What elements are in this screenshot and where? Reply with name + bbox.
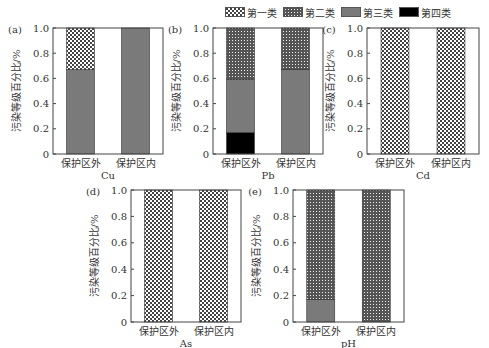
x-axis-label: Cu	[101, 170, 116, 181]
y-tick-label: 0	[203, 149, 209, 160]
y-tick-label: 0.8	[193, 48, 209, 59]
y-tick-label: 0.4	[273, 264, 289, 275]
charts-canvas: 保护区外保护区内00.20.40.60.81.0(a)Cu污染等级百分比/%保护…	[0, 0, 489, 348]
y-tick-label: 1.0	[273, 185, 289, 196]
x-tick-label: 保护区外	[221, 157, 261, 169]
y-tick-label: 0.8	[111, 211, 127, 222]
y-tick-label: 0.8	[33, 48, 49, 59]
y-tick-label: 0.2	[193, 123, 209, 134]
y-axis-label: 污染等级百分比/%	[324, 50, 336, 133]
bar-segment	[227, 80, 255, 133]
bar-segment	[307, 190, 335, 300]
bar-segment	[67, 28, 95, 70]
x-tick-label: 保护区外	[301, 325, 341, 337]
x-tick-label: 保护区外	[375, 157, 415, 169]
bar-segment	[381, 28, 409, 154]
panel-label: (e)	[248, 186, 262, 197]
bar-segment	[282, 70, 310, 154]
y-tick-label: 0.4	[33, 98, 49, 109]
y-axis-label: 污染等级百分比/%	[250, 215, 262, 298]
x-axis-label: Pb	[261, 170, 274, 181]
x-tick-label: 保护区内	[116, 157, 156, 169]
y-tick-label: 0.6	[193, 73, 209, 84]
bar-segment	[200, 190, 228, 322]
bar-segment	[307, 300, 335, 322]
y-tick-label: 0.6	[273, 237, 289, 248]
y-tick-label: 1.0	[111, 185, 127, 196]
bar-segment	[437, 28, 465, 154]
x-axis-label: pH	[341, 338, 356, 348]
x-axis-label: Cd	[416, 170, 431, 181]
bar-segment	[227, 28, 255, 80]
y-axis-label: 污染等级百分比/%	[10, 50, 22, 133]
y-tick-label: 1.0	[193, 23, 209, 34]
y-tick-label: 0.2	[273, 290, 289, 301]
x-tick-label: 保护区内	[194, 325, 234, 337]
y-tick-label: 0	[43, 149, 49, 160]
y-tick-label: 0.4	[347, 98, 363, 109]
x-tick-label: 保护区外	[61, 157, 101, 169]
y-tick-label: 0	[121, 317, 127, 328]
y-tick-label: 0.4	[111, 264, 127, 275]
panel-label: (d)	[86, 186, 100, 197]
y-tick-label: 0	[357, 149, 363, 160]
y-tick-label: 0.6	[111, 237, 127, 248]
y-tick-label: 0.8	[273, 211, 289, 222]
x-tick-label: 保护区外	[139, 325, 179, 337]
y-tick-label: 0.6	[33, 73, 49, 84]
panel-label: (a)	[8, 24, 22, 35]
panel-label: (c)	[322, 24, 336, 35]
x-tick-label: 保护区内	[356, 325, 396, 337]
bar-segment	[67, 70, 95, 154]
x-tick-label: 保护区内	[276, 157, 316, 169]
y-tick-label: 0.4	[193, 98, 209, 109]
y-tick-label: 0.2	[111, 290, 127, 301]
y-tick-label: 0.6	[347, 73, 363, 84]
y-tick-label: 0.8	[347, 48, 363, 59]
y-axis-label: 污染等级百分比/%	[88, 215, 100, 298]
y-tick-label: 1.0	[33, 23, 49, 34]
bar-segment	[362, 190, 390, 322]
y-tick-label: 0.2	[33, 123, 49, 134]
y-axis-label: 污染等级百分比/%	[170, 50, 182, 133]
bar-segment	[145, 190, 173, 322]
panel-label: (b)	[168, 24, 182, 35]
y-tick-label: 1.0	[347, 23, 363, 34]
bar-segment	[227, 133, 255, 154]
x-axis-label: As	[179, 338, 192, 348]
y-tick-label: 0.2	[347, 123, 363, 134]
bar-segment	[282, 28, 310, 70]
bar-segment	[122, 28, 150, 154]
y-tick-label: 0	[283, 317, 289, 328]
x-tick-label: 保护区内	[431, 157, 471, 169]
